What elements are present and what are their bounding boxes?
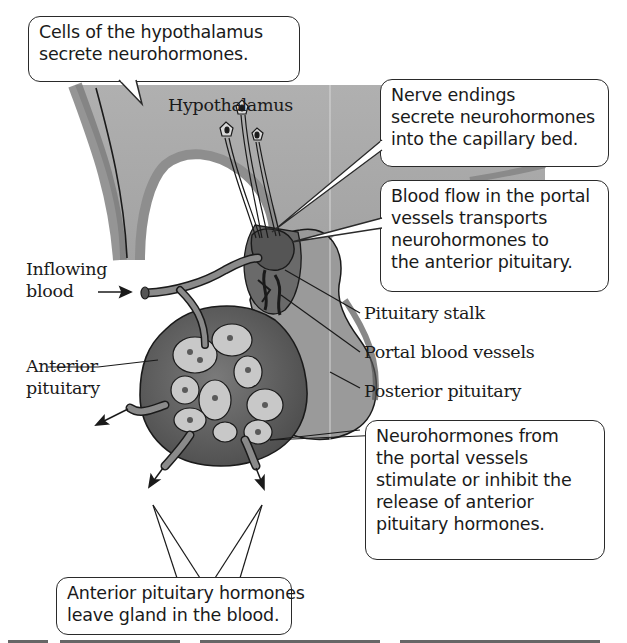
label-inflowing-blood: Inflowing blood <box>26 258 107 302</box>
label-posterior-pituitary: Posterior pituitary <box>364 380 521 402</box>
callout-text: into the capillary bed. <box>391 128 598 150</box>
callout-text: secrete neurohormones. <box>39 43 289 65</box>
label-text: blood <box>26 280 107 302</box>
callout-blood-flow: Blood flow in the portal vessels transpo… <box>380 180 609 292</box>
callout-text: neurohormones to <box>391 229 598 251</box>
label-text: Anterior <box>26 355 100 377</box>
callout-text: release of anterior <box>376 491 594 513</box>
callout-text: Nerve endings <box>391 84 598 106</box>
callout-text: stimulate or inhibit the <box>376 469 594 491</box>
callout-hormones-leave: Anterior pituitary hormones leave gland … <box>56 577 292 635</box>
callout-text: the portal vessels <box>376 447 594 469</box>
callout-nerve-endings: Nerve endings secrete neurohormones into… <box>380 79 609 167</box>
callout-text: vessels transports <box>391 207 598 229</box>
callout-text: Blood flow in the portal <box>391 185 598 207</box>
callout-text: pituitary hormones. <box>376 513 594 535</box>
callout-text: Cells of the hypothalamus <box>39 21 289 43</box>
label-portal-blood-vessels: Portal blood vessels <box>364 341 534 363</box>
callout-text: Neurohormones from <box>376 425 594 447</box>
callout-text: secrete neurohormones <box>391 106 598 128</box>
callout-hypothalamus-cells: Cells of the hypothalamus secrete neuroh… <box>28 16 300 82</box>
label-text: pituitary <box>26 377 100 399</box>
anterior-pituitary-shape <box>140 306 307 466</box>
label-pituitary-stalk: Pituitary stalk <box>364 302 485 324</box>
label-anterior-pituitary: Anterior pituitary <box>26 355 100 399</box>
label-text: Inflowing <box>26 258 107 280</box>
callout-text: leave gland in the blood. <box>67 604 281 626</box>
pituitary-diagram: Cells of the hypothalamus secrete neuroh… <box>0 0 627 643</box>
callout-text: the anterior pituitary. <box>391 251 598 273</box>
callout-text: Anterior pituitary hormones <box>67 582 281 604</box>
callout-neurohormones-effect: Neurohormones from the portal vessels st… <box>365 420 605 560</box>
label-hypothalamus: Hypothalamus <box>168 94 293 116</box>
